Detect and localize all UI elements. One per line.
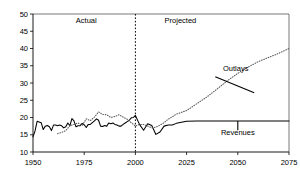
y-tick-label: 15 — [20, 130, 28, 139]
x-tick-label: 2025 — [178, 158, 195, 167]
x-tick-label: 1975 — [76, 158, 93, 167]
x-tick-label: 2000 — [127, 158, 144, 167]
x-tick-label: 1950 — [25, 158, 42, 167]
y-tick-label: 30 — [20, 79, 28, 88]
y-tick-label: 45 — [20, 27, 28, 36]
y-tick-label: 50 — [20, 10, 28, 19]
annotation-outlays: Outlays — [223, 64, 249, 73]
annotation-projected: Projected — [165, 16, 197, 25]
y-tick-label: 20 — [20, 113, 28, 122]
x-tick-label: 2075 — [281, 158, 298, 167]
y-tick-label: 35 — [20, 61, 28, 70]
chart-container: 1015202530354045501950197520002025205020… — [0, 0, 300, 180]
y-tick-label: 10 — [20, 148, 28, 157]
x-tick-label: 2050 — [229, 158, 246, 167]
budget-outlook-chart: 1015202530354045501950197520002025205020… — [0, 0, 300, 180]
y-tick-label: 25 — [20, 96, 28, 105]
annotation-actual: Actual — [76, 16, 97, 25]
y-tick-label: 40 — [20, 44, 28, 53]
outlays-leader-line — [215, 77, 254, 93]
